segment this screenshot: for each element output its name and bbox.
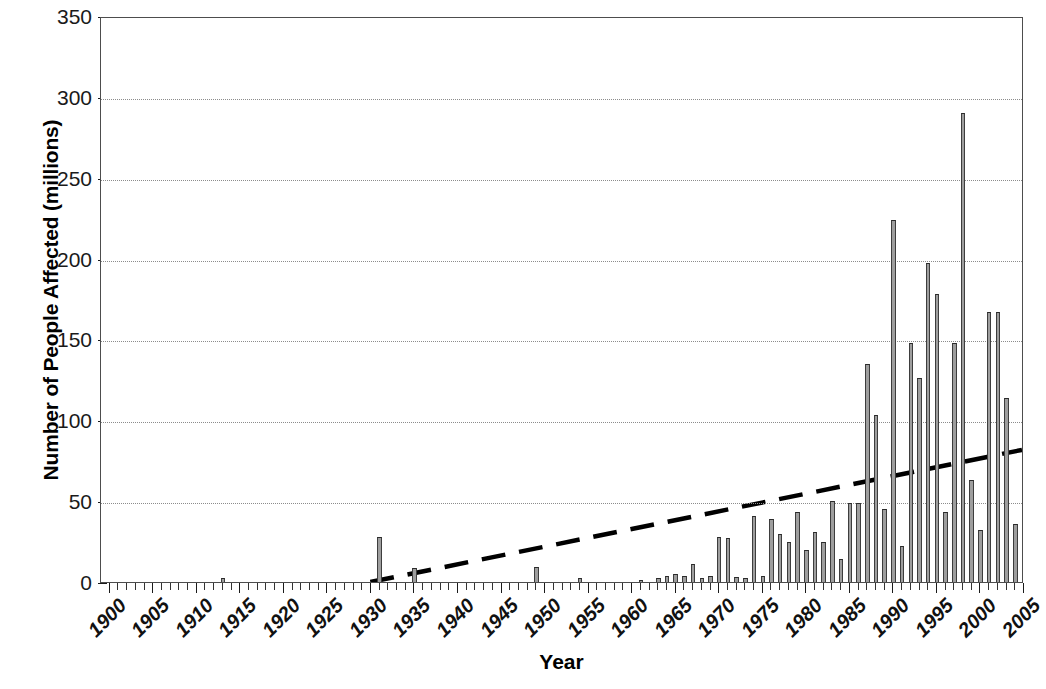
x-axis-major-tick bbox=[326, 583, 327, 593]
x-axis-minor-tick bbox=[231, 583, 232, 590]
bar bbox=[778, 534, 783, 583]
x-axis-minor-tick bbox=[344, 583, 345, 590]
x-axis-minor-tick bbox=[248, 583, 249, 590]
bar bbox=[656, 578, 661, 582]
plot-area bbox=[100, 17, 1023, 583]
x-axis-minor-tick bbox=[770, 583, 771, 590]
x-axis-tick-label: 1965 bbox=[649, 594, 697, 642]
x-axis-minor-tick bbox=[701, 583, 702, 590]
bar bbox=[673, 574, 678, 582]
x-axis-major-tick bbox=[109, 583, 110, 593]
bar bbox=[891, 220, 896, 582]
x-axis-minor-tick bbox=[126, 583, 127, 590]
bar bbox=[578, 578, 583, 582]
x-axis-major-tick bbox=[544, 583, 545, 593]
x-axis-major-tick bbox=[457, 583, 458, 593]
bar bbox=[1004, 398, 1009, 582]
x-axis-minor-tick bbox=[927, 583, 928, 590]
x-axis-tick-label: 1955 bbox=[562, 594, 610, 642]
gridline bbox=[101, 341, 1022, 342]
x-axis-minor-tick bbox=[1014, 583, 1015, 590]
x-axis-tick-label: 1975 bbox=[736, 594, 784, 642]
bar bbox=[795, 512, 800, 582]
y-axis-tick-label: 150 bbox=[36, 328, 92, 352]
gridline bbox=[101, 180, 1022, 181]
x-axis-minor-tick bbox=[448, 583, 449, 590]
x-axis-minor-tick bbox=[614, 583, 615, 590]
x-axis-tick-label: 1935 bbox=[388, 594, 436, 642]
bar bbox=[978, 530, 983, 582]
y-axis-tick-label: 200 bbox=[36, 248, 92, 272]
x-axis-minor-tick bbox=[204, 583, 205, 590]
y-axis-tick-label: 100 bbox=[36, 409, 92, 433]
x-axis-minor-tick bbox=[553, 583, 554, 590]
x-axis-minor-tick bbox=[727, 583, 728, 590]
bar bbox=[969, 480, 974, 582]
x-axis-minor-tick bbox=[222, 583, 223, 590]
bar bbox=[821, 542, 826, 582]
x-axis-tick-label: 1940 bbox=[432, 594, 480, 642]
chart-figure: Number of People Affected (millions) 050… bbox=[0, 0, 1046, 689]
x-axis-minor-tick bbox=[135, 583, 136, 590]
x-axis-title: Year bbox=[100, 650, 1023, 674]
bar bbox=[926, 263, 931, 582]
x-axis-minor-tick bbox=[622, 583, 623, 590]
gridline bbox=[101, 422, 1022, 423]
x-axis-tick-label: 1930 bbox=[344, 594, 392, 642]
gridline bbox=[101, 261, 1022, 262]
x-axis-minor-tick bbox=[178, 583, 179, 590]
x-axis-minor-tick bbox=[562, 583, 563, 590]
x-axis-minor-tick bbox=[535, 583, 536, 590]
bar bbox=[813, 532, 818, 582]
x-axis-major-tick bbox=[631, 583, 632, 593]
bar bbox=[726, 538, 731, 582]
x-axis-minor-tick bbox=[840, 583, 841, 590]
bar bbox=[996, 312, 1001, 582]
x-axis-minor-tick bbox=[919, 583, 920, 590]
x-axis-minor-tick bbox=[866, 583, 867, 590]
x-axis-tick-label: 1920 bbox=[257, 594, 305, 642]
bar bbox=[734, 577, 739, 582]
x-axis-minor-tick bbox=[814, 583, 815, 590]
x-axis-major-tick bbox=[588, 583, 589, 593]
x-axis-minor-tick bbox=[387, 583, 388, 590]
x-axis-minor-tick bbox=[901, 583, 902, 590]
x-axis-minor-tick bbox=[945, 583, 946, 590]
gridline bbox=[101, 99, 1022, 100]
x-axis-minor-tick bbox=[788, 583, 789, 590]
bar bbox=[917, 378, 922, 582]
x-axis-major-tick bbox=[892, 583, 893, 593]
x-axis-minor-tick bbox=[797, 583, 798, 590]
x-axis-minor-tick bbox=[466, 583, 467, 590]
x-axis-minor-tick bbox=[265, 583, 266, 590]
x-axis-minor-tick bbox=[570, 583, 571, 590]
x-axis-minor-tick bbox=[318, 583, 319, 590]
x-axis-minor-tick bbox=[161, 583, 162, 590]
x-axis-minor-tick bbox=[971, 583, 972, 590]
x-axis-ticks bbox=[100, 583, 1023, 593]
x-axis-minor-tick bbox=[858, 583, 859, 590]
x-axis-minor-tick bbox=[213, 583, 214, 590]
x-axis-major-tick bbox=[849, 583, 850, 593]
x-axis-major-tick bbox=[283, 583, 284, 593]
bar bbox=[865, 364, 870, 582]
x-axis-tick-label: 1910 bbox=[170, 594, 218, 642]
x-axis-minor-tick bbox=[292, 583, 293, 590]
y-axis-tick-labels: 050100150200250300350 bbox=[36, 0, 92, 689]
x-axis-minor-tick bbox=[170, 583, 171, 590]
x-axis-major-tick bbox=[501, 583, 502, 593]
x-axis-minor-tick bbox=[379, 583, 380, 590]
x-axis-minor-tick bbox=[492, 583, 493, 590]
x-axis-minor-tick bbox=[640, 583, 641, 590]
x-axis-minor-tick bbox=[579, 583, 580, 590]
x-axis-tick-label: 1980 bbox=[780, 594, 828, 642]
x-axis-minor-tick bbox=[405, 583, 406, 590]
bar bbox=[752, 516, 757, 582]
bar bbox=[909, 343, 914, 582]
trendline bbox=[101, 18, 1022, 582]
y-axis-tick-label: 50 bbox=[36, 490, 92, 514]
bar bbox=[830, 501, 835, 582]
x-axis-minor-tick bbox=[1006, 583, 1007, 590]
x-axis-tick-label: 1990 bbox=[867, 594, 915, 642]
x-axis-minor-tick bbox=[422, 583, 423, 590]
